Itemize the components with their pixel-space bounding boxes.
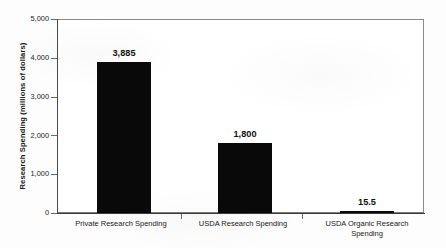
y-tick-label: 3,000 [3, 93, 49, 101]
y-tick-label: 2,000 [3, 132, 49, 140]
x-axis-category-label: USDA Research Spending [185, 219, 301, 229]
y-tick-label: 5,000 [3, 15, 49, 23]
x-axis-category-label: USDA Organic Research Spending [311, 219, 423, 238]
y-axis-line [57, 19, 58, 214]
bar-value-label: 3,885 [90, 48, 158, 59]
x-tick-mark [181, 214, 182, 219]
bar-value-label: 15.5 [333, 197, 401, 208]
y-tick-label: 4,000 [3, 54, 49, 62]
x-tick-mark [302, 214, 303, 219]
bar-private-research-spending [97, 62, 151, 213]
bar-value-label: 1,800 [211, 129, 279, 140]
bar-usda-research-spending [218, 143, 272, 213]
bar-usda-organic-research-spending [340, 211, 394, 213]
bar-chart: Research Spending (millions of dollars) … [0, 0, 446, 248]
y-tick-label: 0 [3, 209, 49, 217]
y-axis-tick-labels: 5,000 4,000 3,000 2,000 1,000 0 [0, 0, 49, 248]
y-tick-label: 1,000 [3, 170, 49, 178]
x-axis-category-label: Private Research Spending [61, 219, 181, 229]
x-axis-line [57, 213, 425, 214]
